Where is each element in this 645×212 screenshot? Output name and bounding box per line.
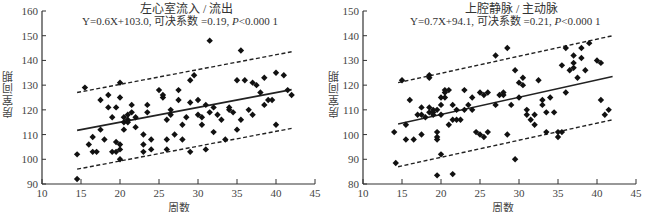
regression-equation: Y=0.6X+103.0, 可决系数 =0.19, P<0.000 1 bbox=[82, 12, 278, 28]
data-point-marker bbox=[492, 52, 498, 58]
data-point-marker bbox=[574, 75, 580, 81]
y-axis-label: 房室间期 bbox=[0, 70, 16, 118]
x-tick-label: 10 bbox=[358, 187, 370, 199]
data-point-marker bbox=[117, 94, 123, 100]
x-tick-label: 35 bbox=[232, 187, 244, 199]
data-point-marker bbox=[598, 97, 604, 103]
y-tick-label: 130 bbox=[22, 79, 39, 91]
data-point-marker bbox=[175, 97, 181, 103]
data-point-marker bbox=[418, 131, 424, 137]
data-point-marker bbox=[86, 141, 92, 147]
data-point-marker bbox=[535, 77, 541, 83]
p-label: P bbox=[232, 15, 239, 27]
data-point-marker bbox=[563, 89, 569, 95]
axes: 80901001101201301401501015202530354045 bbox=[343, 5, 643, 199]
equation-text: Y=0.7X+94.1, 可决系数 =0.21, bbox=[410, 15, 555, 27]
data-point-marker bbox=[90, 134, 96, 140]
data-point-marker bbox=[140, 141, 146, 147]
data-point-marker bbox=[156, 87, 162, 93]
data-point-marker bbox=[578, 55, 584, 61]
prediction-band-upper bbox=[77, 52, 292, 93]
chart-panel-svc-aorta: 80901001101201301401501015202530354045 上… bbox=[322, 0, 645, 212]
data-point-marker bbox=[187, 99, 193, 105]
data-point-marker bbox=[261, 75, 267, 81]
data-point-marker bbox=[105, 104, 111, 110]
p-value: <0.000 1 bbox=[239, 15, 278, 27]
data-point-marker bbox=[438, 112, 444, 118]
y-tick-label: 150 bbox=[343, 5, 360, 17]
data-point-marker bbox=[551, 109, 557, 115]
data-point-marker bbox=[582, 67, 588, 73]
data-point-marker bbox=[516, 94, 522, 100]
data-point-marker bbox=[246, 107, 252, 113]
data-point-marker bbox=[175, 87, 181, 93]
data-point-marker bbox=[461, 87, 467, 93]
data-point-marker bbox=[74, 151, 80, 157]
data-point-marker bbox=[187, 149, 193, 155]
data-point-marker bbox=[234, 77, 240, 83]
data-point-marker bbox=[97, 126, 103, 132]
x-tick-label: 20 bbox=[436, 187, 448, 199]
data-point-marker bbox=[132, 124, 138, 130]
data-point-marker bbox=[442, 94, 448, 100]
data-point-marker bbox=[191, 72, 197, 78]
scatter-plot-right: 80901001101201301401501015202530354045 bbox=[322, 0, 645, 212]
data-point-marker bbox=[207, 109, 213, 115]
data-point-marker bbox=[234, 126, 240, 132]
data-point-marker bbox=[407, 97, 413, 103]
data-point-marker bbox=[97, 97, 103, 103]
data-point-marker bbox=[531, 112, 537, 118]
data-point-marker bbox=[469, 94, 475, 100]
data-point-marker bbox=[199, 121, 205, 127]
data-point-marker bbox=[446, 121, 452, 127]
data-point-marker bbox=[203, 146, 209, 152]
data-point-marker bbox=[457, 117, 463, 123]
data-point-marker bbox=[450, 102, 456, 108]
x-tick-label: 45 bbox=[631, 187, 643, 199]
x-axis-label: 周数 bbox=[492, 199, 514, 212]
data-point-marker bbox=[93, 149, 99, 155]
data-point-marker bbox=[113, 104, 119, 110]
data-point-marker bbox=[531, 121, 537, 127]
regression-equation: Y=0.7X+94.1, 可决系数 =0.21, P<0.000 1 bbox=[410, 12, 600, 28]
data-point-marker bbox=[512, 67, 518, 73]
data-point-marker bbox=[450, 171, 456, 177]
y-tick-label: 120 bbox=[22, 104, 39, 116]
x-tick-label: 30 bbox=[514, 187, 526, 199]
data-point-marker bbox=[121, 126, 127, 132]
data-point-marker bbox=[101, 136, 107, 142]
data-point-marker bbox=[148, 136, 154, 142]
data-point-marker bbox=[391, 129, 397, 135]
data-point-marker bbox=[524, 107, 530, 113]
data-point-marker bbox=[179, 136, 185, 142]
data-point-marker bbox=[140, 131, 146, 137]
data-point-marker bbox=[187, 77, 193, 83]
data-point-marker bbox=[528, 117, 534, 123]
data-point-marker bbox=[606, 107, 612, 113]
data-point-marker bbox=[438, 102, 444, 108]
x-tick-label: 15 bbox=[76, 187, 88, 199]
x-tick-label: 15 bbox=[397, 187, 409, 199]
x-tick-label: 10 bbox=[37, 187, 49, 199]
data-point-marker bbox=[508, 102, 514, 108]
chart-panel-left-ventricle: 901001101201301401501601015202530354045 … bbox=[0, 0, 325, 212]
p-value: <0.000 1 bbox=[561, 15, 600, 27]
data-point-marker bbox=[504, 131, 510, 137]
x-tick-label: 20 bbox=[115, 187, 127, 199]
data-point-marker bbox=[485, 129, 491, 135]
data-point-marker bbox=[210, 129, 216, 135]
data-point-marker bbox=[411, 136, 417, 142]
data-point-marker bbox=[238, 117, 244, 123]
y-axis-label: 房室间期 bbox=[326, 70, 342, 118]
data-point-marker bbox=[393, 160, 399, 166]
data-point-marker bbox=[273, 70, 279, 76]
y-tick-label: 110 bbox=[343, 104, 360, 116]
data-point-marker bbox=[207, 37, 213, 43]
data-point-marker bbox=[218, 117, 224, 123]
data-point-marker bbox=[74, 176, 80, 182]
data-point-marker bbox=[578, 45, 584, 51]
y-tick-label: 160 bbox=[22, 5, 39, 17]
data-point-marker bbox=[214, 112, 220, 118]
data-point-marker bbox=[434, 172, 440, 178]
data-point-marker bbox=[288, 92, 294, 98]
